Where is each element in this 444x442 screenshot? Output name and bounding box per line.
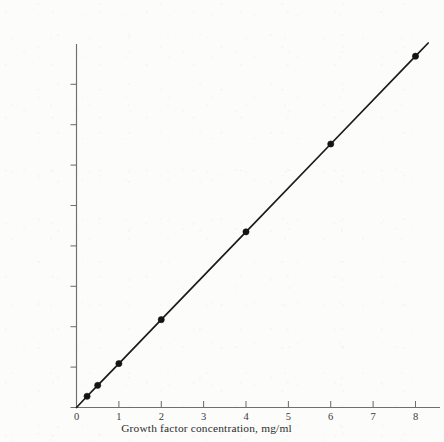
data-point — [116, 360, 122, 366]
x-tick-label: 8 — [413, 411, 418, 422]
x-tick-label: 0 — [74, 411, 79, 422]
plot-canvas: 0 1 2 3 4 5 6 7 8 — [40, 16, 444, 442]
y-axis-ticks — [71, 84, 77, 407]
series-line-cell-yield — [77, 43, 429, 407]
x-tick-label: 4 — [243, 411, 249, 422]
data-point — [95, 382, 101, 388]
x-tick-label: 2 — [159, 411, 164, 422]
x-axis-title: Growth factor concentration, mg/ml — [40, 422, 373, 434]
data-series-group — [77, 43, 429, 407]
x-tick-label: 5 — [286, 411, 291, 422]
data-point — [412, 53, 418, 59]
data-point — [328, 141, 334, 147]
linear-growth-factor-chart: 0 1 2 3 4 5 6 7 8 Growth factor concentr… — [40, 16, 373, 426]
data-point — [243, 229, 249, 235]
data-point — [84, 393, 90, 399]
x-tick-label: 1 — [116, 411, 121, 422]
x-axis-tick-labels: 0 1 2 3 4 5 6 7 8 — [74, 411, 418, 422]
x-tick-label: 7 — [370, 411, 375, 422]
x-tick-label: 6 — [328, 411, 333, 422]
axes-group — [77, 44, 441, 408]
x-axis-ticks — [119, 401, 416, 408]
data-point — [158, 317, 164, 323]
x-tick-label: 3 — [201, 411, 206, 422]
